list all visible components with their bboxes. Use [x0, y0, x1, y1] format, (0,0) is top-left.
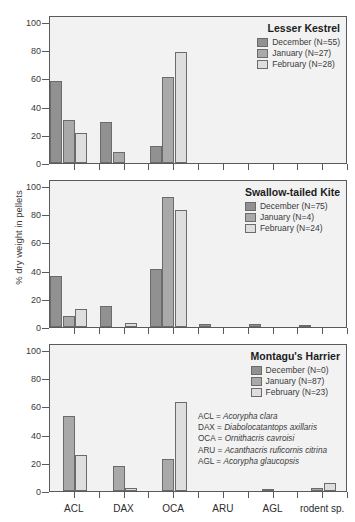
x-tick — [223, 328, 224, 334]
x-tick — [124, 492, 125, 498]
y-tick-label: 0 — [9, 159, 41, 169]
y-tick-label: 40 — [9, 267, 41, 277]
x-tick-label: DAX — [113, 503, 134, 514]
y-tick-label: 20 — [9, 295, 41, 305]
x-tick-minor — [297, 492, 298, 498]
y-tick-label: 60 — [9, 402, 41, 412]
x-tick-minor — [198, 164, 199, 170]
x-tick — [173, 492, 174, 498]
y-tick-label: 100 — [9, 18, 41, 28]
x-tick-minor — [148, 164, 149, 170]
y-tick-label: 0 — [9, 487, 41, 497]
y-tick — [42, 492, 49, 493]
x-tick — [173, 328, 174, 334]
x-tick — [173, 164, 174, 170]
x-tick — [273, 328, 274, 334]
x-tick — [322, 164, 323, 170]
x-tick-minor — [99, 164, 100, 170]
bar-chart-figure: % dry weight in pellets Lesser Kestrel D… — [0, 0, 355, 522]
x-tick-minor — [297, 164, 298, 170]
y-tick — [42, 108, 49, 109]
y-tick — [42, 464, 49, 465]
x-tick-minor — [347, 328, 348, 334]
y-axis: 020406080100 — [49, 180, 347, 328]
x-tick-label: ARU — [212, 503, 233, 514]
y-axis: 020406080100 — [49, 16, 347, 164]
y-tick — [42, 379, 49, 380]
y-tick-label: 100 — [9, 346, 41, 356]
x-tick-minor — [198, 328, 199, 334]
y-tick-label: 80 — [9, 374, 41, 384]
x-tick-minor — [198, 492, 199, 498]
y-axis: 020406080100 — [49, 344, 347, 492]
y-tick-label: 20 — [9, 131, 41, 141]
x-tick — [322, 328, 323, 334]
x-tick-minor — [148, 492, 149, 498]
x-tick — [273, 164, 274, 170]
x-tick-minor — [99, 328, 100, 334]
y-tick-label: 60 — [9, 74, 41, 84]
x-tick-minor — [297, 328, 298, 334]
y-tick — [42, 187, 49, 188]
y-tick — [42, 51, 49, 52]
y-tick — [42, 328, 49, 329]
y-tick-label: 20 — [9, 459, 41, 469]
y-tick-label: 0 — [9, 323, 41, 333]
y-tick — [42, 243, 49, 244]
x-tick-minor — [99, 492, 100, 498]
x-tick-label: OCA — [162, 503, 184, 514]
y-tick-label: 80 — [9, 210, 41, 220]
x-tick-minor — [347, 164, 348, 170]
x-tick-minor — [148, 328, 149, 334]
x-tick-label: ACL — [64, 503, 83, 514]
x-tick — [223, 164, 224, 170]
x-tick — [74, 164, 75, 170]
y-tick — [42, 351, 49, 352]
y-tick — [42, 215, 49, 216]
y-tick — [42, 407, 49, 408]
y-tick — [42, 164, 49, 165]
x-tick — [74, 328, 75, 334]
x-tick — [74, 492, 75, 498]
y-tick — [42, 23, 49, 24]
x-tick-label: AGL — [262, 503, 282, 514]
y-tick-label: 60 — [9, 238, 41, 248]
x-tick-label: rodent sp. — [300, 503, 344, 514]
y-tick-label: 40 — [9, 431, 41, 441]
y-tick — [42, 136, 49, 137]
x-tick-minor — [248, 164, 249, 170]
y-tick-label: 80 — [9, 46, 41, 56]
x-tick — [124, 328, 125, 334]
x-tick-minor — [248, 328, 249, 334]
panel-lesser-kestrel: Lesser Kestrel December (N=55)January (N… — [49, 16, 347, 164]
x-tick — [124, 164, 125, 170]
y-tick-label: 100 — [9, 182, 41, 192]
x-tick — [223, 492, 224, 498]
panel-swallow-tailed-kite: Swallow-tailed Kite December (N=75)Janua… — [49, 180, 347, 328]
y-tick — [42, 79, 49, 80]
x-tick-minor — [347, 492, 348, 498]
x-tick-minor — [248, 492, 249, 498]
panel-montagus-harrier: Montagu's Harrier December (N=0)January … — [49, 344, 347, 492]
y-tick — [42, 300, 49, 301]
y-tick — [42, 436, 49, 437]
x-tick — [322, 492, 323, 498]
y-tick-label: 40 — [9, 103, 41, 113]
x-tick — [273, 492, 274, 498]
y-tick — [42, 272, 49, 273]
